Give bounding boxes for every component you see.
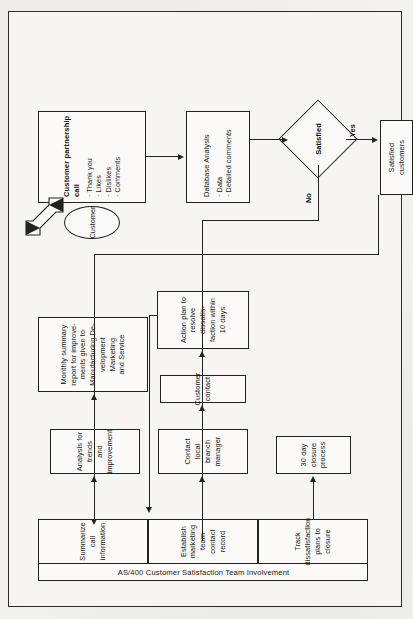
edge-label-no: No [304, 193, 313, 203]
database-analysis-bullet-1: · Detailed comments [224, 129, 233, 197]
node-monthly-summary: Monthly summary report for improve- ment… [38, 317, 148, 392]
edge-database-to-satisfied [250, 139, 282, 140]
arrowhead-satisfied-yes [372, 138, 378, 144]
partnership-call-bullet-0: · Thank you [85, 158, 94, 197]
lane-activity-track: Track dissatisfaction plans to closure [258, 519, 368, 564]
swimlane-title: AS/400 Customer Satisfaction Team Involv… [38, 564, 368, 581]
arrowhead-call-to-database [178, 155, 184, 161]
node-closure-process: 30 day closure process [276, 436, 351, 474]
arrowhead-return-to-summarize [91, 519, 97, 525]
edge-action-to-track-seg-h [149, 315, 150, 507]
rotated-diagram-container: AS/400 Customer Satisfaction Team Involv… [8, 11, 402, 607]
arrowhead-action-to-track [146, 507, 152, 513]
edge-no-seg-h2 [202, 220, 203, 541]
edge-call-to-database [146, 156, 178, 157]
partnership-call-title: Customer partnership call [62, 114, 82, 197]
partnership-call-bullet-2: · Dislikes [104, 167, 113, 197]
diagram-outer-frame: AS/400 Customer Satisfaction Team Involv… [8, 11, 402, 607]
edge-return-outer-v [94, 254, 378, 255]
node-customer: Customer [64, 206, 120, 239]
edge-action-to-track-seg-v [149, 315, 158, 316]
swimlane-title-text: AS/400 Customer Satisfaction Team Involv… [117, 568, 289, 577]
edge-customer-bidirectional [22, 191, 68, 237]
node-partnership-call: Customer partnership call · Thank you · … [38, 111, 146, 203]
edge-no-seg-v [202, 220, 319, 221]
arrowhead-track-to-closure [310, 476, 316, 482]
database-analysis-bullet-0: · Data [215, 177, 224, 197]
partnership-call-bullet-1: · Likes [94, 175, 103, 197]
edge-return-outer-h [378, 195, 379, 255]
flowchart-canvas: AS/400 Customer Satisfaction Team Involv… [8, 11, 402, 607]
edge-label-yes: Yes [348, 124, 357, 137]
arrowhead-database-to-satisfied [282, 138, 288, 144]
decision-label: Satisfied [290, 111, 346, 167]
partnership-call-bullet-3: · Comments [113, 157, 122, 197]
database-analysis-title: Database Analysis [202, 134, 212, 197]
node-satisfied-customers: Satisfied customers [380, 120, 413, 195]
node-database-analysis: Database Analysis · Data · Detailed comm… [186, 111, 250, 203]
edge-return-to-summarize-h [94, 255, 95, 513]
edge-satisfied-yes [346, 139, 372, 140]
edge-no-seg-h1 [318, 165, 319, 221]
edge-track-to-closure [313, 481, 314, 519]
node-satisfied-decision: Satisfied [290, 111, 346, 167]
lane-activity-summarize: Summarize call information [38, 519, 148, 564]
